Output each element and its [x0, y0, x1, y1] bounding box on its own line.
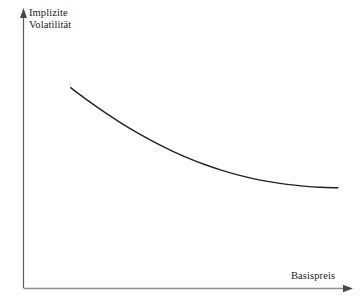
- implied-volatility-curve: [71, 88, 338, 188]
- y-axis-arrowhead: [20, 8, 27, 18]
- x-axis-label: Basispreis: [291, 270, 335, 282]
- x-axis-arrowhead: [343, 285, 353, 292]
- volatility-skew-figure: Implizite Volatilität Basispreis: [0, 0, 362, 305]
- plot-canvas: [0, 0, 362, 305]
- y-axis-label-line1: Implizite: [29, 7, 71, 19]
- y-axis-label: Implizite Volatilität: [29, 7, 71, 31]
- y-axis-label-line2: Volatilität: [29, 19, 71, 31]
